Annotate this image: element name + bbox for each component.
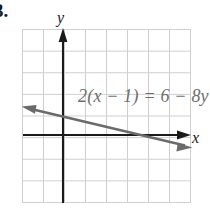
graph-figure: 3. y x 2(x − 1) = 6 − 8y xyxy=(0,0,210,211)
x-axis xyxy=(23,130,191,139)
x-axis-label: x xyxy=(192,130,199,146)
equation-annotation: 2(x − 1) = 6 − 8y xyxy=(78,85,210,107)
y-axis-label: y xyxy=(57,10,64,26)
plot-line xyxy=(22,105,193,152)
